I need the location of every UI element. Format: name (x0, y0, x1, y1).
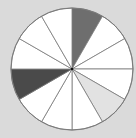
fraction-circle (0, 0, 136, 138)
center-dot (71, 68, 74, 71)
